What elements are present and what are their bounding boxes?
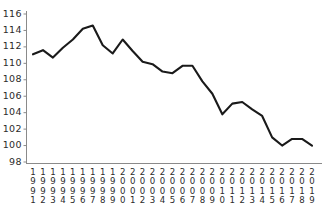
y-tick-label: 98 xyxy=(0,157,22,167)
y-tick-label: 114 xyxy=(0,25,22,35)
y-tick-label: 106 xyxy=(0,91,22,101)
y-tick-label: 108 xyxy=(0,74,22,84)
y-tick-label: 100 xyxy=(0,140,22,150)
y-tick-label: 102 xyxy=(0,124,22,134)
y-tick-label: 104 xyxy=(0,107,22,117)
data-series-line xyxy=(33,26,312,146)
line-chart: 11611411211010810610410210098 1991199219… xyxy=(0,0,327,207)
plot-area xyxy=(0,0,327,207)
y-tick-label: 116 xyxy=(0,9,22,19)
y-tick-label: 110 xyxy=(0,58,22,68)
y-tick-label: 112 xyxy=(0,41,22,51)
